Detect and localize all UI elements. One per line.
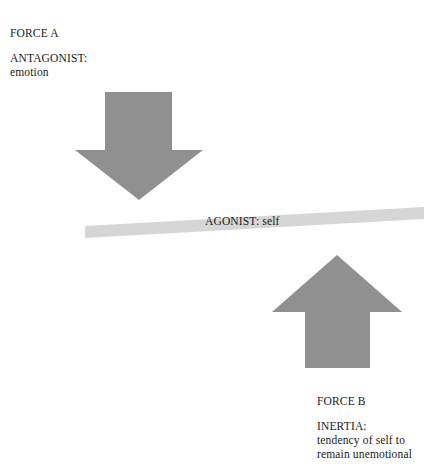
arrow-up-graphic — [0, 0, 432, 468]
label-inertia-title: INERTIA: — [317, 419, 367, 434]
up-arrow-icon — [272, 255, 402, 368]
label-inertia-body-line-1: tendency of self to — [317, 433, 405, 448]
label-inertia-body-line-2: remain unemotional — [317, 447, 412, 462]
label-force-b: FORCE B — [317, 394, 366, 409]
force-diagram-canvas: FORCE A ANTAGONIST: emotion AGONIST: sel… — [0, 0, 432, 468]
